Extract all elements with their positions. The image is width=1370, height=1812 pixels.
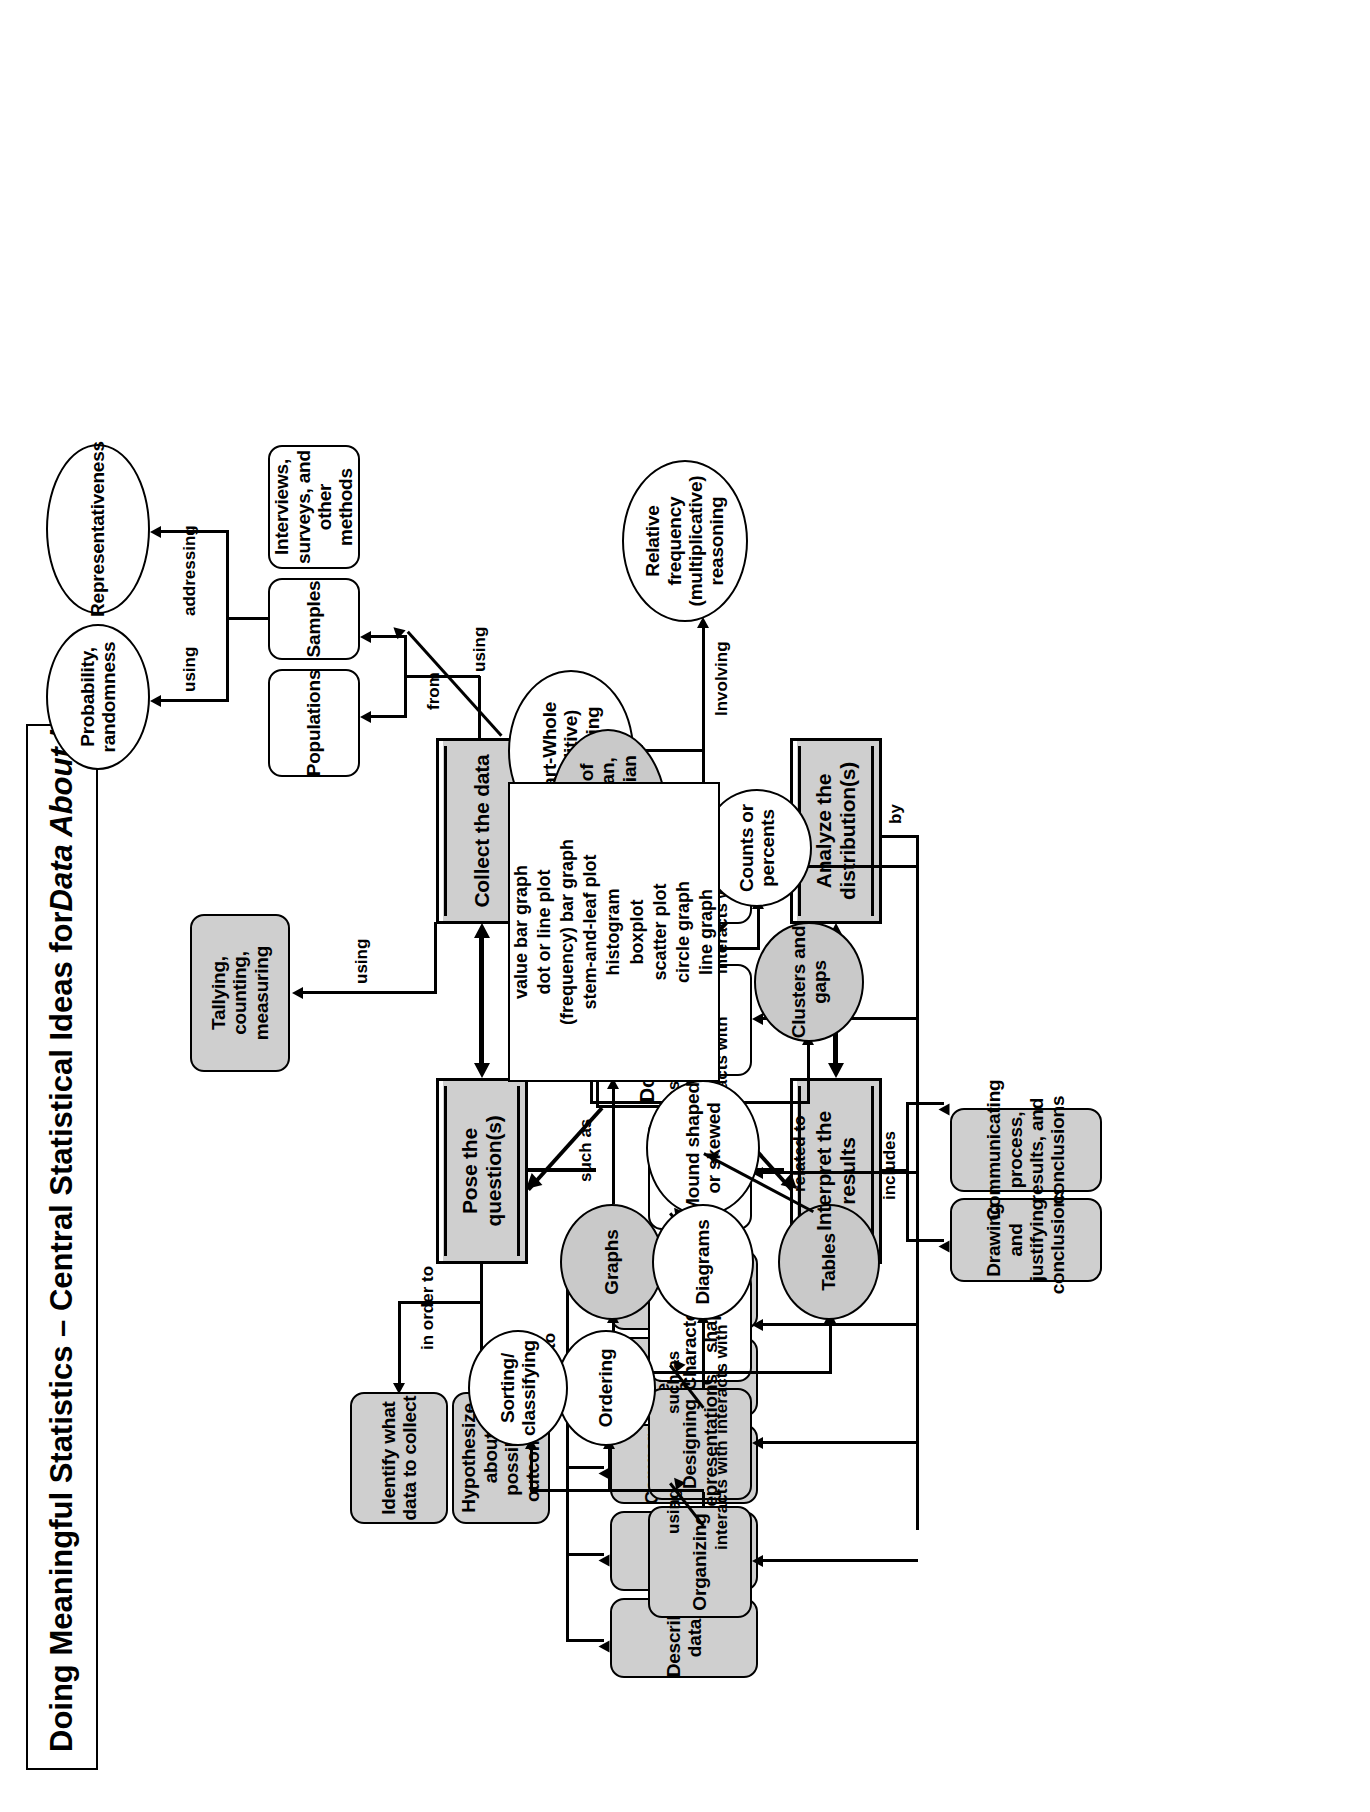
edge-label-such-as-4: such as	[664, 1351, 684, 1414]
node-identify-data-label: Identify what data to collect	[378, 1394, 421, 1522]
node-counts-percents-label: Counts or percents	[736, 791, 779, 905]
arrow-to-designing-representations	[752, 1437, 763, 1449]
edge-probability-up	[160, 699, 228, 702]
node-clusters-and-gaps[interactable]: Clusters and gaps	[754, 922, 864, 1042]
arrow-pose-collect-right	[474, 923, 490, 938]
node-ordering[interactable]: Ordering	[556, 1330, 656, 1446]
node-samples-label: Samples	[303, 581, 324, 658]
node-representativeness-label: Representativeness	[87, 441, 108, 617]
core-node-pose-the-question[interactable]: Pose the question(s)	[436, 1078, 528, 1264]
node-probability-randomness[interactable]: Probability, randomness	[46, 624, 150, 770]
edge-label-collect-using-right: using	[470, 627, 490, 672]
edge-populations-up	[370, 715, 406, 718]
edge-label-by: by	[886, 804, 906, 824]
arrow-to-describe-data	[599, 1641, 610, 1653]
edge-organizing-split-vert	[608, 1489, 704, 1492]
edge-identify-h	[398, 1301, 401, 1384]
edge-samples-split-horiz	[226, 530, 229, 702]
node-sorting-classifying[interactable]: Sorting/ classifying	[468, 1330, 568, 1446]
edge-label-involving: Involving	[712, 641, 732, 716]
arrow-collect-tallying	[292, 987, 303, 999]
edge-pose-upper-vert	[398, 1301, 482, 1304]
arrow-interpret-analyze-left	[828, 1063, 844, 1078]
edge-to-organizing	[760, 1559, 918, 1562]
arrow-to-representativeness	[150, 526, 161, 538]
core-node-collect-label: Collect the data	[470, 750, 494, 911]
node-identify-what-data-to-collect[interactable]: Identify what data to collect	[350, 1392, 448, 1524]
edge-samples-split-vert	[226, 617, 270, 620]
arrow-to-samples	[360, 631, 371, 643]
edge-sorting-h	[530, 1446, 533, 1492]
node-ordering-label: Ordering	[595, 1349, 616, 1428]
edge-partwhole-line	[640, 749, 704, 752]
edge-to-shape	[760, 1323, 918, 1326]
node-mound-shaped-or-skewed[interactable]: Mound shaped or skewed	[646, 1080, 760, 1216]
edge-designing-such-as	[702, 1374, 705, 1388]
edge-label-samples-using: using	[180, 647, 200, 692]
node-sorting-classifying-label: Sorting/ classifying	[497, 1332, 540, 1444]
node-organizing-label: Organizing	[689, 1513, 710, 1610]
node-communicating-label: Communicating process, results, and conc…	[983, 1080, 1068, 1221]
edge-diagrams-h	[702, 1320, 705, 1374]
node-populations-label: Populations	[303, 670, 324, 777]
concept-map-canvas: Doing Meaningful Statistics – Central St…	[0, 0, 1370, 1812]
edge-organizing-using	[702, 1492, 705, 1506]
edge-label-organizing-using: using	[664, 1489, 684, 1534]
edge-label-includes: includes	[880, 1131, 900, 1200]
node-graphs[interactable]: Graphs	[560, 1204, 664, 1320]
edge-relfreq-line	[702, 624, 705, 752]
arrow-to-summarize-data	[599, 1555, 610, 1567]
edge-label-from: from	[424, 672, 444, 710]
arrow-to-probability	[150, 695, 161, 707]
node-tallying-label: Tallying, counting, measuring	[208, 916, 272, 1070]
edge-pose-upper-trunk	[480, 1262, 483, 1304]
core-node-interpret-label: Interpret the results	[812, 1081, 859, 1261]
node-populations[interactable]: Populations	[268, 669, 360, 777]
arrow-pose-collect-left	[474, 1063, 490, 1078]
node-tallying-counting-measuring[interactable]: Tallying, counting, measuring	[190, 914, 290, 1072]
arrow-to-populations	[360, 711, 371, 723]
node-graphs-label: Graphs	[601, 1229, 622, 1294]
edge-collect-tallying-stub	[434, 922, 437, 994]
edge-label-pose-in-order-to-upper: in order to	[418, 1266, 438, 1350]
edge-populations-stub	[404, 675, 407, 718]
node-communicating-results[interactable]: Communicating process, results, and conc…	[950, 1108, 1102, 1192]
edge-pose-collect	[479, 932, 484, 1070]
node-clusters-gaps-label: Clusters and gaps	[788, 924, 831, 1040]
node-diagrams[interactable]: Diagrams	[652, 1204, 754, 1320]
edge-label-samples-addressing: addressing	[180, 525, 200, 616]
node-representativeness[interactable]: Representativeness	[46, 444, 150, 614]
arrow-to-computing-summaries	[752, 1013, 763, 1025]
edge-label-related-to: related to	[790, 1115, 810, 1192]
core-node-analyze-label: Analyze the distribution(s)	[812, 741, 859, 921]
core-node-pose-label: Pose the question(s)	[458, 1081, 505, 1261]
node-probability-label: Probability, randomness	[77, 626, 120, 768]
page-title-text: Doing Meaningful Statistics – Central St…	[44, 911, 80, 1752]
node-mound-shaped-label: Mound shaped or skewed	[682, 1082, 725, 1214]
edge-label-such-as-5: such as	[576, 1119, 596, 1182]
edge-ordering-h	[608, 1446, 611, 1492]
arrow-to-drawing-conclusions	[939, 1241, 950, 1253]
node-samples[interactable]: Samples	[268, 578, 360, 660]
edge-label-interacts-with-4: interacts with	[712, 1324, 732, 1434]
graph-types-list: value bar graph dot or line plot (freque…	[508, 782, 720, 1082]
edge-collect-sources-trunk	[478, 676, 481, 738]
edge-collect-tallying	[301, 991, 436, 994]
node-interviews-label: Interviews, surveys, and other methods	[271, 447, 356, 567]
edge-analyze-by-stub	[882, 835, 918, 838]
edge-graphs-such-as	[612, 1086, 615, 1204]
edge-label-interacts-with-5: interacts with	[712, 1440, 732, 1550]
node-diagrams-label: Diagrams	[692, 1220, 713, 1305]
arrow-to-organizing	[752, 1555, 763, 1567]
edge-tables-h	[829, 1320, 832, 1374]
edge-to-designing	[760, 1441, 918, 1444]
edge-samples-stub	[404, 635, 407, 678]
node-relative-frequency-reasoning[interactable]: Relative frequency (multiplicative) reas…	[622, 460, 748, 622]
edge-clusters-h	[807, 1042, 810, 1104]
edge-counts-h	[757, 906, 760, 950]
arrow-to-communicating	[939, 1104, 950, 1116]
node-relative-frequency-label: Relative frequency (multiplicative) reas…	[642, 462, 727, 620]
edge-analyze-spine	[916, 835, 919, 1530]
node-interviews-surveys[interactable]: Interviews, surveys, and other methods	[268, 445, 360, 569]
arrow-to-characterizing-shape	[752, 1319, 763, 1331]
